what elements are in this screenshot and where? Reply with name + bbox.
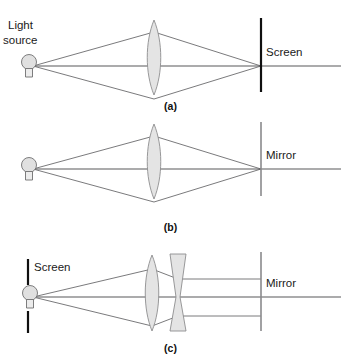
ray-lower	[33, 169, 261, 202]
screen-label: Screen	[266, 46, 302, 58]
light-source-label-line1: Light	[8, 19, 34, 31]
convex-lens	[147, 20, 161, 95]
convex-lens	[147, 124, 161, 199]
light-bulb-icon	[23, 286, 38, 309]
ray-lower	[33, 66, 261, 99]
mirror-label: Mirror	[266, 277, 296, 289]
screen-label: Screen	[34, 261, 70, 273]
panel-a-caption: (a)	[0, 100, 341, 112]
panel-b-caption: (b)	[0, 221, 341, 233]
optics-figure: Light source Screen (a) Mirror (b)	[0, 0, 341, 363]
panel-c-caption: (c)	[0, 342, 341, 354]
light-bulb-icon	[22, 158, 37, 181]
light-bulb-icon	[22, 55, 37, 78]
light-source-label-line2: source	[3, 34, 38, 46]
mirror-label: Mirror	[266, 149, 296, 161]
convex-lens	[145, 255, 159, 331]
concave-lens	[170, 254, 186, 331]
